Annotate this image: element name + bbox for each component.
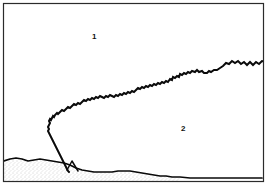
region-label-1: 1: [92, 33, 96, 41]
region-label-2: 2: [181, 125, 185, 133]
figure-container: 1 2: [0, 0, 268, 188]
figure-canvas: [0, 0, 268, 188]
